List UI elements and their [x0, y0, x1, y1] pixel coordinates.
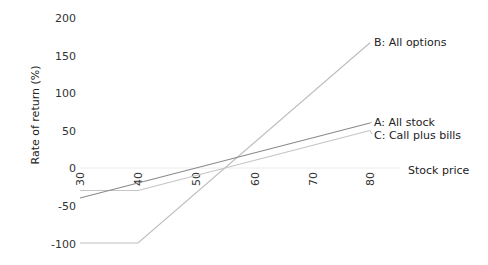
label-connector — [370, 131, 372, 135]
payoff-chart: Rate of return (%) 200 150 100 50 0 -50 … — [0, 0, 488, 265]
y-axis-title: Rate of return (%) — [29, 66, 42, 165]
x-tick: 30 — [74, 172, 87, 186]
y-tick: 200 — [55, 12, 76, 25]
x-axis-title: Stock price — [408, 164, 470, 177]
x-tick: 80 — [364, 172, 377, 186]
label-connector — [370, 122, 372, 123]
y-tick: -100 — [51, 238, 76, 251]
series-label-b: B: All options — [374, 36, 447, 49]
y-tick: -50 — [58, 200, 76, 213]
x-axis-ticks: 30 40 50 60 70 80 — [74, 172, 377, 186]
series-line-a — [80, 123, 370, 198]
x-tick: 70 — [307, 172, 320, 186]
y-axis-ticks: 200 150 100 50 0 -50 -100 — [51, 12, 76, 251]
y-tick: 100 — [55, 87, 76, 100]
series-lines — [80, 43, 372, 243]
series-label-c: C: Call plus bills — [374, 129, 461, 142]
x-tick: 60 — [249, 172, 262, 186]
series-line-b — [80, 43, 370, 243]
y-tick: 150 — [55, 50, 76, 63]
y-tick: 50 — [62, 125, 76, 138]
series-label-a: A: All stock — [374, 116, 435, 129]
